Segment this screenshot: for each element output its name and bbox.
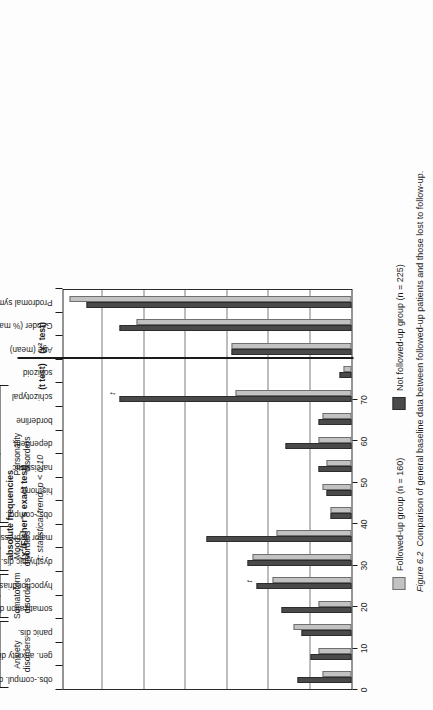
category-label: obs.-compul. <box>5 510 52 519</box>
category-axis-tick <box>55 618 62 619</box>
group-label-line-1: Mood <box>12 531 22 566</box>
value-axis-tick-label: 10 <box>358 644 368 653</box>
category-axis-tick <box>55 524 62 525</box>
bar-followed-up <box>322 671 351 677</box>
group-label: Mooddisorders <box>12 531 32 566</box>
group-label-line-2: disorders <box>22 531 32 566</box>
category-axis-tick <box>55 430 62 431</box>
group-bracket <box>0 385 8 524</box>
bar-followed-up <box>318 648 351 654</box>
group-label-line-1: Personality <box>12 433 22 476</box>
category-label: borderline <box>16 416 52 425</box>
bar-followed-up <box>235 390 351 396</box>
group-label-line-1: Somatoform <box>12 572 22 619</box>
category-axis-tick <box>55 453 62 454</box>
figure-number: Figure 6.2 <box>414 551 424 592</box>
bar-followed-up <box>318 437 351 443</box>
bar-group <box>63 595 351 618</box>
group-bracket <box>0 621 8 689</box>
bar-not-followed-up <box>281 607 351 613</box>
value-axis-tick-label: 60 <box>358 437 368 446</box>
category-label: panic dis. <box>17 628 52 637</box>
bar-followed-up <box>318 601 351 607</box>
bar-not-followed-up <box>318 466 351 472</box>
legend-label-not-followed-up: Not followed-up group (n = 225) <box>394 264 404 391</box>
category-axis-ticks <box>54 289 62 690</box>
bar-not-followed-up <box>86 302 351 308</box>
value-axis-tick-label: 0 <box>358 688 368 693</box>
bar-group <box>63 548 351 571</box>
figure-caption-text: Comparison of general baseline data betw… <box>414 171 424 547</box>
category-label: Gender (% male) <box>0 321 52 330</box>
category-label: schizoid <box>22 368 52 377</box>
bar-followed-up <box>322 484 351 490</box>
value-axis-tick <box>352 565 357 566</box>
bar-not-followed-up <box>297 677 351 683</box>
legend-item-not-followed-up: Not followed-up group (n = 225) <box>392 264 405 410</box>
bar-not-followed-up <box>330 513 351 519</box>
category-axis-tick <box>55 689 62 690</box>
category-axis-tick <box>55 288 62 289</box>
category-axis-tick <box>55 595 62 596</box>
category-axis-tick <box>55 312 62 313</box>
category-label: schizotypal <box>11 392 52 401</box>
bar-not-followed-up: t <box>256 583 351 589</box>
category-axis-tick <box>55 477 62 478</box>
bar-group <box>63 314 351 337</box>
bar-followed-up <box>136 319 351 325</box>
bar-group <box>63 431 351 454</box>
value-axis: 010203040506070 <box>352 289 378 690</box>
figure-page: absolute frequencies (χ2/Fisher's exact … <box>0 0 433 710</box>
rotated-figure-stage: absolute frequencies (χ2/Fisher's exact … <box>0 0 433 710</box>
bar-followed-up <box>343 366 351 372</box>
category-axis-tick <box>55 665 62 666</box>
group-label-line-2: disorders <box>22 637 32 672</box>
category-label: Age (mean) <box>9 345 52 354</box>
group-label: Anxietydisorders <box>12 637 32 672</box>
group-label-line-2: disorders <box>22 572 32 619</box>
bar-followed-up <box>330 507 351 513</box>
category-label: Prodromal symptoms (% present) <box>0 298 52 307</box>
bar-not-followed-up <box>231 349 351 355</box>
bar-group <box>63 619 351 642</box>
group-label: Somatoformdisorders <box>12 572 32 619</box>
bar-group <box>63 501 351 524</box>
bar-group <box>63 360 351 383</box>
group-label-line-2: disorders <box>22 433 32 476</box>
category-axis-tick <box>55 547 62 548</box>
group-label: Personalitydisorders <box>12 433 32 476</box>
plot-area: tt <box>62 289 352 690</box>
legend-swatch-icon-followed-up <box>392 577 405 590</box>
bar-not-followed-up <box>301 630 351 636</box>
bar-group: t <box>63 572 351 595</box>
group-label-line-1: Anxiety <box>12 637 22 672</box>
bar-group <box>63 478 351 501</box>
value-axis-tick-label: 40 <box>358 520 368 529</box>
category-axis-tick <box>55 571 62 572</box>
bar-group <box>63 290 351 313</box>
bar-group <box>63 525 351 548</box>
legend-swatch-icon-not-followed-up <box>392 397 405 410</box>
bar-not-followed-up <box>310 654 351 660</box>
bar-followed-up <box>252 554 351 560</box>
bar-series-container: tt <box>63 290 351 689</box>
value-axis-tick <box>352 606 357 607</box>
bar-group <box>63 666 351 689</box>
category-label: histrionic <box>20 486 52 495</box>
bar-followed-up <box>293 624 351 630</box>
value-axis-tick <box>352 482 357 483</box>
bar-followed-up <box>272 577 351 583</box>
category-axis-tick <box>55 335 62 336</box>
value-axis-tick <box>352 689 357 690</box>
bar-not-followed-up <box>326 490 351 496</box>
bar-followed-up <box>69 296 351 302</box>
trend-marker: t <box>244 574 253 588</box>
value-axis-tick-label: 50 <box>358 478 368 487</box>
bar-not-followed-up <box>339 372 351 378</box>
legend-label-followed-up: Followed-up group (n = 160) <box>394 458 404 571</box>
bar-group <box>63 642 351 665</box>
value-axis-tick-label: 20 <box>358 602 368 611</box>
figure-caption: Figure 6.2 Comparison of general baselin… <box>414 171 424 592</box>
bar-not-followed-up <box>247 560 351 566</box>
group-bracket <box>0 526 8 570</box>
